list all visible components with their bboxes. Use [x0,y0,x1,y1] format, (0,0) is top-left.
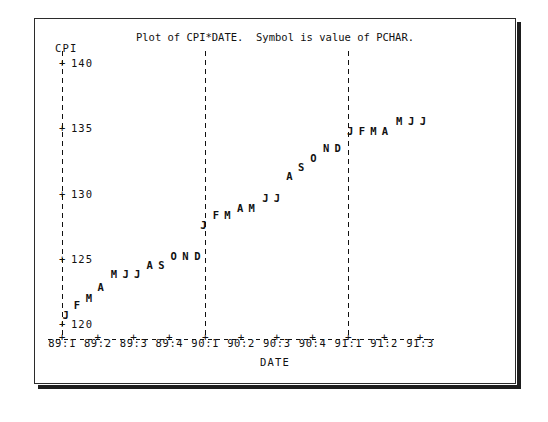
data-point-symbol: D [194,250,200,262]
data-point-symbol: J [262,192,268,204]
x-tick-label-89q1: 89:1 [48,337,76,349]
data-point-symbol: F [359,125,365,137]
y-tick-label: 135 [51,123,93,134]
data-point-symbol: M [370,125,376,137]
page-shadow-right [517,22,521,388]
plot-page: Plot of CPI*DATE. Symbol is value of PCH… [34,18,516,384]
x-tick-label-90q3: 90:3 [263,337,291,349]
data-point-symbol: J [62,309,68,321]
y-tick-label: 140 [51,58,93,69]
data-point-symbol: O [310,152,316,164]
x-tick-label-89q2: 89:2 [84,337,112,349]
data-point-symbol: J [420,115,426,127]
data-point-symbol: A [237,202,243,214]
data-point-symbol: F [74,299,80,311]
plot-canvas: Plot of CPI*DATE. Symbol is value of PCH… [35,19,515,383]
data-point-symbol: A [286,170,292,182]
x-tick-label-89q4: 89:4 [156,337,184,349]
data-point-symbol: J [200,219,206,231]
x-tick-label-91q3: 91:3 [406,337,434,349]
x-tick-label-89q3: 89:3 [120,337,148,349]
data-point-symbol: M [224,209,230,221]
x-tick-label-91q1: 91:1 [335,337,363,349]
y-tick-125: 125 [49,254,93,265]
x-tick-label-91q2: 91:2 [370,337,398,349]
x-axis-label: DATE [35,357,515,368]
data-point-symbol: N [323,142,329,154]
data-point-symbol: N [182,250,188,262]
y-axis-line [62,51,63,339]
x-tick-label-90q4: 90:4 [299,337,327,349]
data-point-symbol: J [408,115,414,127]
y-tick-120: 120 [49,319,93,330]
data-point-symbol: S [158,259,164,271]
data-point-symbol: M [396,115,402,127]
x-tick-label-90q2: 90:2 [227,337,255,349]
data-point-symbol: A [147,259,153,271]
reference-line-91q1 [348,51,349,339]
plot-title: Plot of CPI*DATE. Symbol is value of PCH… [35,32,515,43]
data-point-symbol: O [171,250,177,262]
y-tick-130: 130 [49,189,93,200]
data-point-symbol: J [123,268,129,280]
data-point-symbol: J [274,192,280,204]
y-tick-140: 140 [49,58,93,69]
y-axis-label: CPI [55,43,78,54]
data-point-symbol: S [298,161,304,173]
x-tick-label-90q1: 90:1 [191,337,219,349]
data-point-symbol: J [134,268,140,280]
data-point-symbol: A [382,125,388,137]
reference-line-90q1 [205,51,206,339]
data-point-symbol: A [97,281,103,293]
data-point-symbol: M [249,202,255,214]
y-tick-label: 125 [51,254,93,265]
page-shadow-bottom [38,385,521,389]
data-point-symbol: M [86,292,92,304]
data-point-symbol: D [334,142,340,154]
y-tick-label: 120 [51,319,93,330]
y-tick-label: 130 [51,189,93,200]
y-tick-135: 135 [49,123,93,134]
data-point-symbol: M [111,268,117,280]
data-point-symbol: F [213,209,219,221]
data-point-symbol: J [347,125,353,137]
